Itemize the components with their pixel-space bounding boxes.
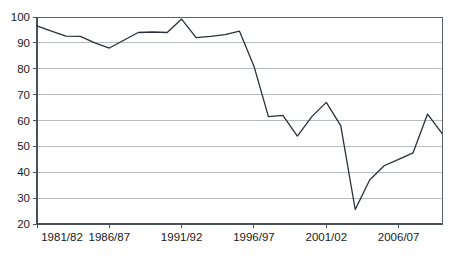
x-tick-label: 1991/92 [161,231,203,243]
y-tick-marks [33,17,37,224]
plot-area: 2030405060708090100 1981/821986/871991/9… [11,11,442,243]
y-tick-label: 90 [17,37,30,49]
x-axis: 1981/821986/871991/921996/972001/022006/… [37,224,442,243]
x-tick-label: 2006/07 [378,231,420,243]
y-tick-labels: 2030405060708090100 [11,11,30,230]
x-tick-label: 1986/87 [89,231,131,243]
x-tick-labels: 1981/821986/871991/921996/972001/022006/… [41,231,419,243]
y-tick-label: 80 [17,63,30,75]
y-tick-label: 70 [17,89,30,101]
y-tick-label: 30 [17,192,30,204]
y-tick-label: 40 [17,166,30,178]
y-tick-label: 100 [11,11,30,23]
x-tick-marks [37,224,399,228]
y-tick-label: 20 [17,218,30,230]
x-tick-label: 2001/02 [305,231,347,243]
x-tick-label: 1996/97 [233,231,275,243]
chart-canvas: 2030405060708090100 1981/821986/871991/9… [0,0,455,265]
x-tick-label: 1981/82 [41,231,83,243]
y-axis: 2030405060708090100 [11,11,37,230]
y-tick-label: 60 [17,115,30,127]
y-tick-label: 50 [17,140,30,152]
line-chart: 2030405060708090100 1981/821986/871991/9… [0,0,455,265]
